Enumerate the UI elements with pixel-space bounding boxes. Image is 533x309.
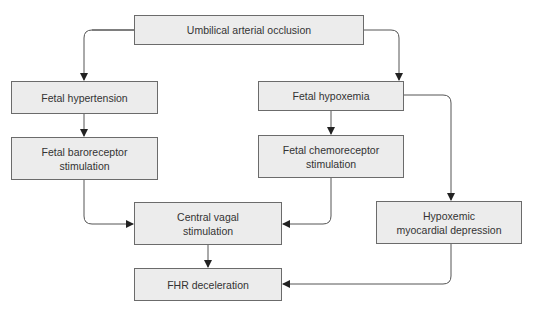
node-fetal-chemoreceptor-stimulation: Fetal chemoreceptor stimulation — [258, 135, 404, 178]
edge-chemoreceptor-vagal — [283, 178, 331, 224]
edge-umbilical-hypertension — [84, 30, 134, 80]
node-label-line2: stimulation — [177, 224, 239, 238]
node-hypoxemic-myocardial-depression: Hypoxemic myocardial depression — [376, 201, 522, 244]
node-label: FHR deceleration — [167, 278, 249, 292]
node-umbilical-arterial-occlusion: Umbilical arterial occlusion — [134, 15, 364, 45]
node-label-line1: Hypoxemic — [396, 209, 501, 223]
node-label: Fetal hypertension — [41, 91, 127, 105]
edge-myocardial-fhr — [283, 244, 451, 284]
node-fhr-deceleration: FHR deceleration — [134, 268, 282, 301]
node-label-line2: stimulation — [283, 157, 379, 171]
node-central-vagal-stimulation: Central vagal stimulation — [134, 202, 282, 245]
node-label-line2: stimulation — [42, 159, 128, 173]
node-label: Umbilical arterial occlusion — [187, 23, 311, 37]
node-fetal-hypoxemia: Fetal hypoxemia — [258, 81, 404, 111]
node-label-line2: myocardial depression — [396, 223, 501, 237]
node-label-line1: Central vagal — [177, 210, 239, 224]
node-fetal-baroreceptor-stimulation: Fetal baroreceptor stimulation — [11, 137, 158, 180]
node-label-line1: Fetal baroreceptor — [42, 145, 128, 159]
node-label-line1: Fetal chemoreceptor — [283, 143, 379, 157]
node-fetal-hypertension: Fetal hypertension — [11, 81, 158, 114]
node-label: Fetal hypoxemia — [292, 89, 369, 103]
edge-baroreceptor-vagal — [84, 180, 133, 224]
edge-hypoxemia-myocardial — [404, 95, 451, 200]
